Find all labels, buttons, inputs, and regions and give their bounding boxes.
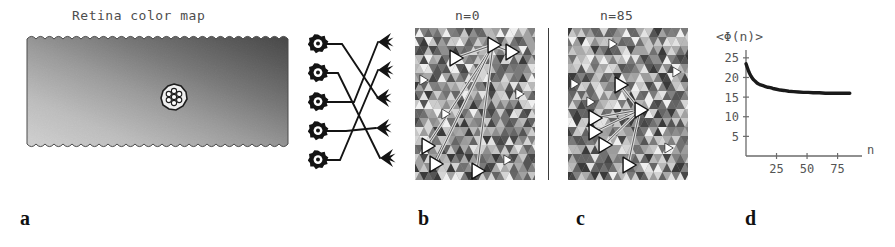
x-axis-label: n (867, 143, 874, 157)
receptor-column (308, 34, 328, 169)
panel-d-convergence-plot: <Φ(n)> 510152025 255075 n (712, 28, 887, 180)
target-column (376, 33, 396, 167)
rosette-receptor-icon (308, 150, 328, 169)
triangular-mosaic-c (568, 28, 688, 180)
x-tick-label: 25 (769, 162, 783, 176)
cluster-cell-s (171, 100, 176, 105)
rosette-receptor-icon (308, 121, 328, 140)
panel-divider (548, 28, 549, 180)
arrow-neuron-icon (378, 61, 394, 79)
cluster-cell-se (177, 97, 182, 102)
panel-c-mosaic (568, 28, 688, 180)
rosette-receptor-icon (308, 92, 328, 111)
cluster-cell-ne (177, 91, 182, 96)
convergence-curve (746, 64, 850, 93)
x-tick-label: 50 (800, 162, 814, 176)
rosette-receptor-icon (308, 63, 328, 82)
arrow-neuron-icon (376, 119, 392, 137)
figure-root: Retina color map (0, 0, 895, 247)
panel-c-title: n=85 (600, 8, 633, 23)
y-tick-label: 15 (725, 91, 739, 105)
wiring-connections (324, 42, 380, 160)
wiring-diagram (308, 30, 403, 178)
arrow-neuron-icon (376, 89, 392, 107)
y-tick-label: 10 (725, 110, 739, 124)
cluster-cell-nw (166, 91, 171, 96)
cluster-cell-center (171, 94, 176, 99)
panel-a-retina-map (22, 33, 294, 150)
panel-letter-d: d (745, 208, 756, 228)
panel-b-mosaic (415, 28, 535, 180)
y-tick-label: 20 (725, 71, 739, 85)
panel-a-title: Retina color map (72, 8, 205, 23)
x-tick-label: 75 (830, 162, 844, 176)
y-axis-label: <Φ(n)> (716, 29, 763, 44)
y-tick-label: 25 (725, 51, 739, 65)
panel-letter-c: c (576, 208, 585, 228)
retina-grain-overlay (22, 33, 294, 150)
cluster-cell-sw (166, 97, 171, 102)
cluster-cell-n (171, 88, 176, 93)
arrow-neuron-icon (378, 33, 394, 51)
panel-letter-a: a (20, 208, 30, 228)
panel-b-title: n=0 (455, 8, 480, 23)
arrow-neuron-icon (380, 149, 396, 167)
y-tick-label: 5 (732, 130, 739, 144)
panel-letter-b: b (418, 208, 429, 228)
rosette-receptor-icon (308, 34, 328, 53)
